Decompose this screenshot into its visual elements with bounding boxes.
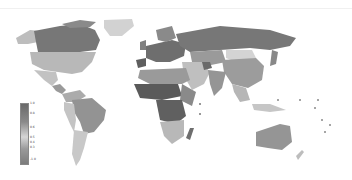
region-russia[interactable]: [176, 26, 296, 52]
region-canada[interactable]: [34, 24, 100, 52]
region-indonesia[interactable]: [252, 104, 286, 112]
colorbar-tick: -1.0: [30, 158, 36, 161]
region-island[interactable]: [299, 99, 301, 101]
region-scandinavia[interactable]: [156, 26, 176, 42]
region-central-america[interactable]: [52, 84, 66, 94]
colorbar-tick: 0.4: [30, 141, 35, 144]
region-uk[interactable]: [140, 40, 146, 50]
region-andes[interactable]: [64, 102, 76, 132]
colorbar: [20, 103, 29, 165]
colorbar-tick: 0.8: [30, 112, 35, 115]
region-mexico[interactable]: [34, 70, 58, 86]
region-island[interactable]: [314, 107, 316, 109]
region-japan[interactable]: [270, 50, 278, 66]
world-map: [0, 0, 352, 180]
region-island[interactable]: [199, 113, 201, 115]
region-greenland[interactable]: [104, 19, 134, 36]
region-southern-africa[interactable]: [160, 120, 184, 144]
region-island[interactable]: [324, 131, 326, 133]
region-china[interactable]: [222, 58, 264, 88]
colorbar-tick: 0.3: [30, 146, 35, 149]
colorbar-tick: 0.5: [30, 136, 35, 139]
region-island[interactable]: [277, 99, 279, 101]
region-australia[interactable]: [256, 124, 292, 150]
region-sahel[interactable]: [134, 84, 182, 100]
region-iberia[interactable]: [136, 58, 146, 68]
region-island[interactable]: [321, 119, 323, 121]
region-island[interactable]: [317, 99, 319, 101]
region-madagascar[interactable]: [186, 128, 194, 140]
colorbar-tick: 1.0: [30, 102, 35, 105]
region-new-zealand[interactable]: [296, 150, 304, 160]
region-india[interactable]: [208, 70, 226, 96]
region-island[interactable]: [329, 124, 331, 126]
colorbar-tick: 0.6: [30, 126, 35, 129]
region-brazil[interactable]: [72, 98, 106, 134]
map-canvas: 1.0 0.8 0.6 0.5 0.4 0.3 -1.0: [0, 0, 352, 180]
region-island[interactable]: [199, 103, 201, 105]
region-north-africa[interactable]: [138, 68, 190, 84]
region-southern-cone[interactable]: [72, 130, 88, 166]
